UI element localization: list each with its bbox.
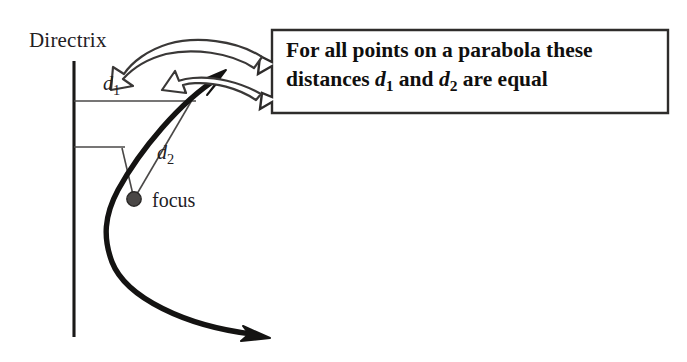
directrix-label: Directrix (29, 30, 107, 51)
callout-d1-letter: d (375, 67, 386, 91)
d2-subscript: 2 (167, 151, 174, 167)
focus-point-dot (127, 192, 141, 206)
focus-label: focus (152, 190, 195, 210)
parabola-diagram: Directrix focus d1 d2 For all points on … (0, 0, 687, 362)
callout-d2-letter: d (439, 67, 450, 91)
d2-letter: d (157, 141, 167, 163)
callout-line-2-prefix: distances (286, 67, 375, 91)
d1-label: d1 (103, 73, 120, 97)
callout-text: For all points on a parabola these dista… (286, 36, 658, 96)
callout-line-2-suffix: are equal (457, 67, 547, 91)
callout-line-2-and: and (393, 67, 438, 91)
callout-line-2: distances d1 and d2 are equal (286, 65, 658, 97)
callout-line-1: For all points on a parabola these (286, 36, 658, 65)
d2-label: d2 (157, 142, 174, 166)
d1-subscript: 1 (113, 82, 120, 98)
d1-letter: d (103, 72, 113, 94)
callout-line-1-text: For all points on a parabola these (286, 38, 593, 62)
